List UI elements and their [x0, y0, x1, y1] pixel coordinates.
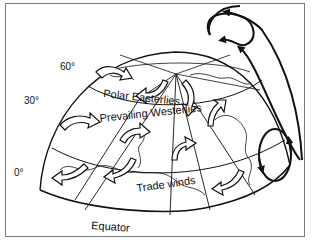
equator-label: Equator — [91, 219, 131, 234]
latitude-60-label: 60° — [60, 61, 75, 72]
globe — [40, 52, 290, 215]
wind-diagram: 60° 30° 0° Polar Easterlies Prevailing W… — [0, 0, 312, 242]
latitude-0-label: 0° — [14, 167, 24, 178]
prevailing-westerlies-label: Prevailing Westerlies — [99, 101, 203, 124]
wind-arrows — [52, 67, 244, 195]
trade-winds-label: Trade winds — [136, 174, 197, 194]
latitude-30-label: 30° — [24, 95, 39, 106]
